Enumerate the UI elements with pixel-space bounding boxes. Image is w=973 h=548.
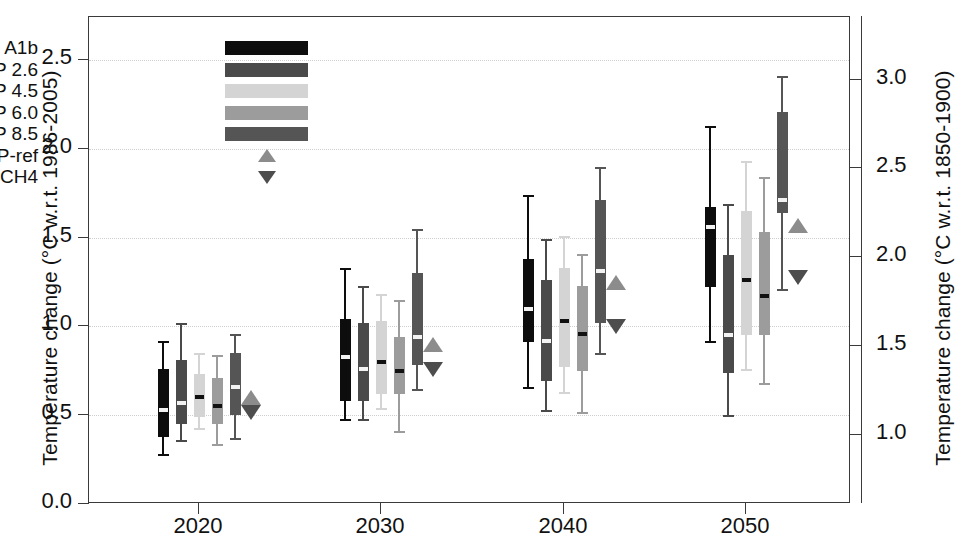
right-axis-spine [861, 16, 862, 503]
whisker-cap-high [394, 300, 405, 302]
box-iqr [358, 323, 369, 401]
x-axis-tick-mark [198, 503, 199, 514]
median-marker [742, 278, 751, 282]
whisker-cap-high [230, 334, 241, 336]
median-marker [596, 269, 605, 273]
boxplot-2050-rcp45 [741, 17, 752, 504]
chart-figure: Temperature change (°C w.r.t. 1986-2005)… [0, 0, 973, 548]
x-axis-tick-label: 2030 [335, 513, 425, 539]
whisker-cap-high [158, 341, 169, 343]
y-axis-right-tick-label: 2.5 [876, 152, 948, 178]
y-axis-right-tick-mark [850, 167, 861, 168]
y-axis-left-title: Temperature change (°C w.r.t. 1986-2005) [38, 38, 62, 498]
whisker-cap-high [340, 268, 351, 270]
plot-area [88, 16, 850, 503]
x-axis-tick-label: 2050 [700, 513, 790, 539]
whisker-cap-high [595, 167, 606, 169]
whisker-cap-high [741, 161, 752, 163]
whisker-cap-high [723, 204, 734, 206]
whisker-cap-low [394, 431, 405, 433]
box-iqr [541, 280, 552, 381]
box-iqr [158, 369, 169, 436]
y-axis-left-tick-label: 1.5 [0, 222, 72, 248]
boxplot-2040-sresa1b [523, 17, 534, 504]
whisker-cap-high [559, 236, 570, 238]
whisker-cap-high [176, 323, 187, 325]
y-axis-right-tick-mark [850, 256, 861, 257]
boxplot-2040-rcp60 [577, 17, 588, 504]
whisker-cap-low [523, 387, 534, 389]
boxplot-2050-sresa1b [705, 17, 716, 504]
whisker-cap-low [541, 410, 552, 412]
whisker-cap-low [176, 440, 187, 442]
median-marker [359, 367, 368, 371]
box-iqr [705, 207, 716, 287]
boxplot-2030-rcp60 [394, 17, 405, 504]
box-iqr [394, 337, 405, 394]
y-axis-right-tick-label: 2.0 [876, 241, 948, 267]
whisker-cap-low [759, 383, 770, 385]
boxplot-2030-rcp26 [358, 17, 369, 504]
median-marker [177, 401, 186, 405]
median-marker [542, 339, 551, 343]
boxplot-2040-rcp26 [541, 17, 552, 504]
boxplot-2050-rcp26 [723, 17, 734, 504]
y-axis-left-tick-label: 0.5 [0, 399, 72, 425]
whisker-cap-high [705, 126, 716, 128]
x-axis-tick-label: 2020 [153, 513, 243, 539]
median-marker [395, 369, 404, 373]
unep-ref-marker-2020 [241, 390, 261, 405]
whisker-cap-low [194, 428, 205, 430]
unep-ch4-marker-2020 [241, 405, 261, 420]
y-axis-right-tick-mark [850, 345, 861, 346]
boxplot-2050-rcp85 [777, 17, 788, 504]
whisker-cap-low [376, 408, 387, 410]
box-iqr [412, 273, 423, 365]
boxplot-2020-rcp26 [176, 17, 187, 504]
whisker-cap-low [777, 289, 788, 291]
whisker-cap-low [212, 444, 223, 446]
boxplot-2040-rcp45 [559, 17, 570, 504]
whisker-cap-high [212, 355, 223, 357]
whisker-cap-high [777, 76, 788, 78]
box-iqr [559, 268, 570, 367]
legend-swatch [225, 84, 308, 98]
whisker-cap-low [559, 392, 570, 394]
y-axis-left-tick-label: 0.0 [0, 488, 72, 514]
unep-ref-marker-2030 [423, 337, 443, 352]
median-marker [341, 355, 350, 359]
whisker-cap-high [577, 254, 588, 256]
box-iqr [212, 378, 223, 424]
legend-swatch [225, 41, 308, 55]
median-marker [213, 404, 222, 408]
whisker-cap-high [412, 229, 423, 231]
y-axis-right-tick-label: 3.0 [876, 64, 948, 90]
boxplot-2050-rcp60 [759, 17, 770, 504]
legend-triangle-down-icon [258, 171, 276, 184]
median-marker [778, 198, 787, 202]
legend-triangle-up-icon [258, 149, 276, 162]
whisker-cap-low [705, 341, 716, 343]
median-marker [159, 408, 168, 412]
whisker-cap-high [759, 177, 770, 179]
unep-ch4-marker-2040 [606, 319, 626, 334]
unep-ref-marker-2040 [606, 275, 626, 290]
whisker-cap-low [723, 415, 734, 417]
whisker-cap-low [358, 419, 369, 421]
box-iqr [577, 286, 588, 371]
box-iqr [376, 321, 387, 394]
median-marker [560, 319, 569, 323]
boxplot-2030-rcp85 [412, 17, 423, 504]
boxplot-2020-rcp60 [212, 17, 223, 504]
median-marker [524, 307, 533, 311]
legend-item-label: RCP 2.6 [0, 59, 38, 81]
box-iqr [723, 255, 734, 372]
legend-swatch [225, 106, 308, 120]
y-axis-right-tick-mark [850, 79, 861, 80]
whisker-cap-low [412, 389, 423, 391]
legend-item-label: -CH4 [0, 166, 38, 188]
box-iqr [759, 232, 770, 335]
median-marker [195, 395, 204, 399]
x-axis-tick-label: 2040 [518, 513, 608, 539]
legend-item-label: RCP 6.0 [0, 102, 38, 124]
